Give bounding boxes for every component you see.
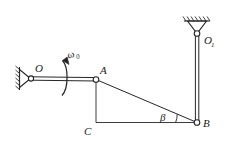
label-o1-subscript: 1 [211,41,215,49]
pivot-o-joint [28,76,33,81]
joint-a-pin [93,77,99,83]
rocker-o1b-member [195,34,198,123]
crank-oa-edge-top [31,77,96,78]
omega-arc-path [62,61,67,96]
label-o1: O 1 [204,34,215,49]
label-omega-base: ω [66,48,76,61]
omega-rotation-arrow [62,57,69,96]
mechanism-drawing: O O 1 A B C ω 0 β [0,0,227,155]
crank-oa-member [31,77,96,81]
pivot-o1-joint [194,31,200,37]
label-c: C [84,125,92,137]
label-omega-subscript: 0 [75,52,81,61]
label-b: B [203,117,210,129]
label-beta: β [159,111,166,123]
joint-b-pin [194,120,200,126]
kinematic-diagram-figure: O O 1 A B C ω 0 β [0,0,227,155]
coupler-ab-member [96,80,197,123]
label-a: A [99,64,107,76]
label-o: O [35,62,43,74]
support-o-hatching [16,66,20,90]
support-o1-hatching [183,17,210,22]
crank-oa-edge-bottom [31,80,96,81]
angle-beta-arc [176,114,178,122]
